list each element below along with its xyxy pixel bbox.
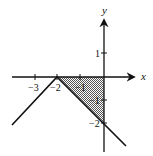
x-tick-label: −3 (28, 82, 39, 93)
y-axis-label: y (101, 4, 107, 16)
graph: −3 −2 −1 1 −1 −2 x y (0, 0, 153, 156)
y-tick-label: −2 (89, 118, 100, 129)
x-tick-label: −1 (75, 82, 86, 93)
y-tick-label: 1 (95, 48, 100, 59)
y-tick-label: −1 (89, 95, 100, 106)
x-axis-label: x (140, 70, 146, 82)
x-tick-label: −2 (50, 82, 61, 93)
